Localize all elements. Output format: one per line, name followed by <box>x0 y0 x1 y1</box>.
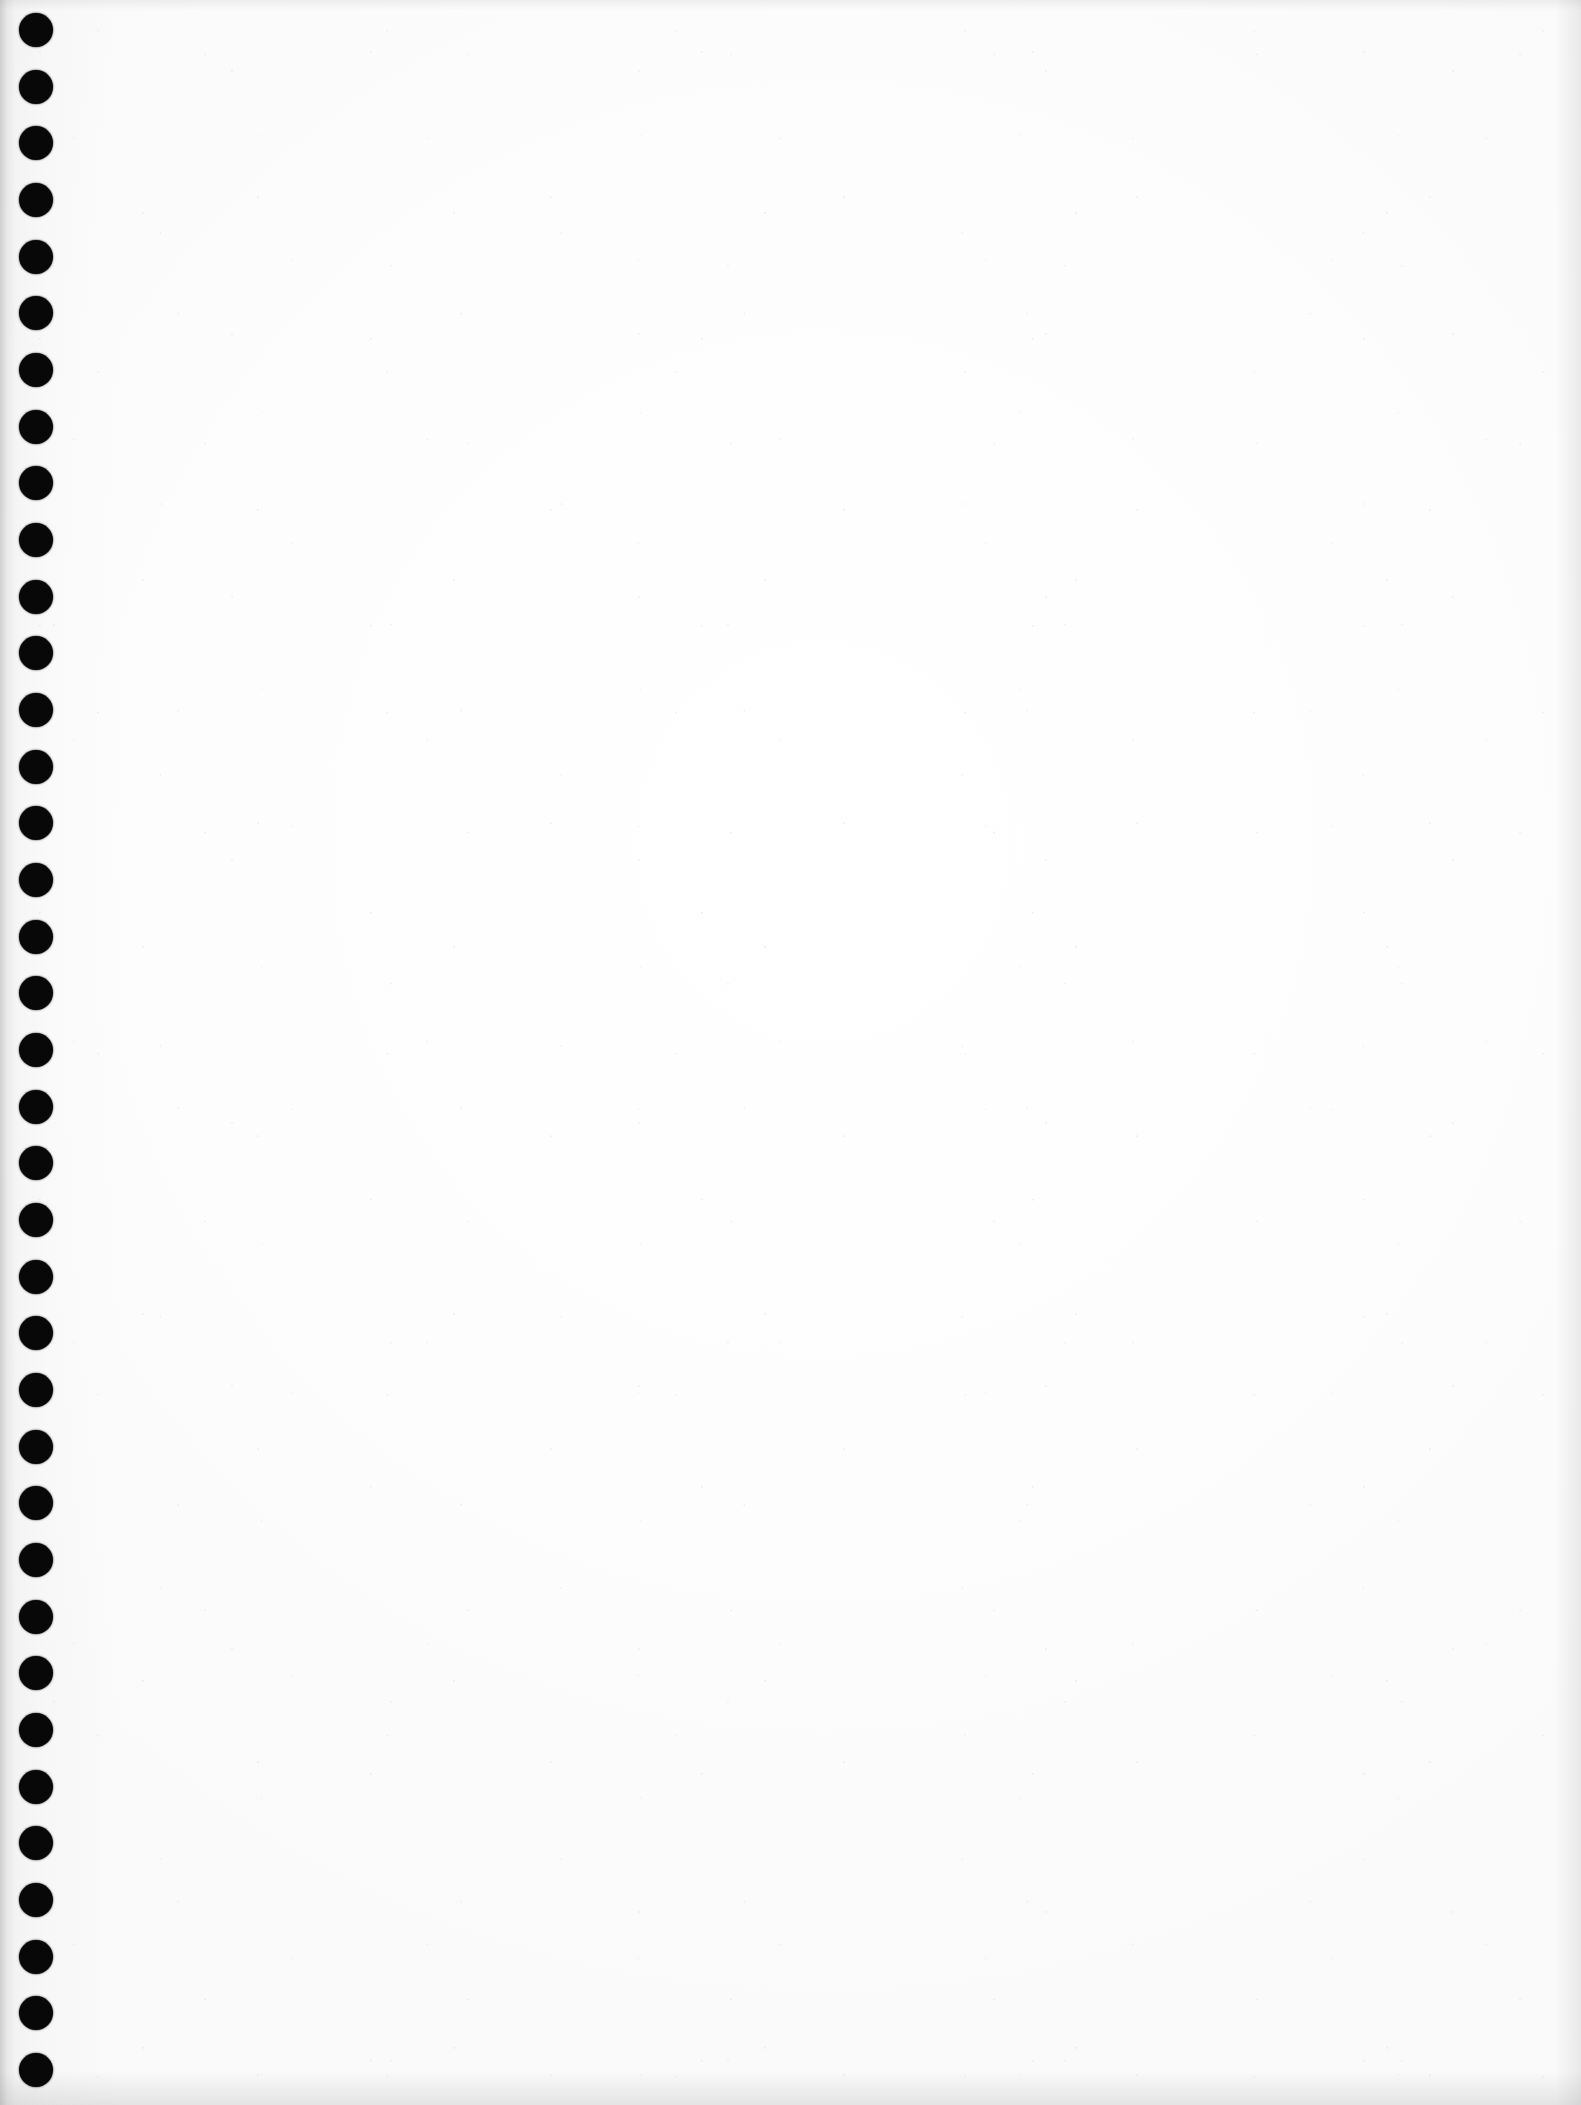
binding-hole-5 <box>19 240 53 274</box>
binding-hole-1 <box>19 13 53 47</box>
binding-hole-12 <box>19 636 53 670</box>
binding-hole-10 <box>19 523 53 557</box>
binding-hole-22 <box>19 1203 53 1237</box>
binding-hole-3 <box>19 126 53 160</box>
binding-hole-29 <box>19 1600 53 1634</box>
binding-hole-28 <box>19 1543 53 1577</box>
binding-hole-13 <box>19 693 53 727</box>
binding-hole-27 <box>19 1486 53 1520</box>
binding-hole-9 <box>19 466 53 500</box>
binding-hole-34 <box>19 1883 53 1917</box>
binding-hole-24 <box>19 1316 53 1350</box>
binding-hole-25 <box>19 1373 53 1407</box>
binding-hole-21 <box>19 1146 53 1180</box>
binding-hole-17 <box>19 920 53 954</box>
binding-hole-37 <box>19 2053 53 2087</box>
binding-hole-30 <box>19 1656 53 1690</box>
binding-hole-8 <box>19 410 53 444</box>
binding-hole-15 <box>19 806 53 840</box>
binding-hole-16 <box>19 863 53 897</box>
binding-hole-26 <box>19 1430 53 1464</box>
spiral-binding-hole-column <box>0 0 86 2105</box>
binding-hole-6 <box>19 296 53 330</box>
binding-hole-2 <box>19 70 53 104</box>
binding-hole-31 <box>19 1713 53 1747</box>
page-body-blank-area <box>86 0 1581 2105</box>
binding-hole-33 <box>19 1826 53 1860</box>
binding-hole-36 <box>19 1996 53 2030</box>
binding-hole-35 <box>19 1940 53 1974</box>
binding-hole-18 <box>19 976 53 1010</box>
binding-hole-20 <box>19 1090 53 1124</box>
binding-hole-7 <box>19 353 53 387</box>
binding-hole-11 <box>19 580 53 614</box>
binding-hole-32 <box>19 1770 53 1804</box>
binding-hole-23 <box>19 1260 53 1294</box>
binding-hole-19 <box>19 1033 53 1067</box>
binding-hole-4 <box>19 183 53 217</box>
binding-hole-14 <box>19 750 53 784</box>
scanned-page <box>0 0 1581 2105</box>
